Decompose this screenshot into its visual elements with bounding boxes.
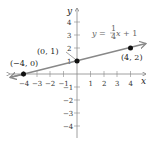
svg-text:−3: −3 [63,110,73,118]
svg-text:3: 3 [67,32,71,40]
point-label-4-2: (4, 2) [121,53,143,62]
svg-text:1: 1 [89,80,93,88]
svg-text:2: 2 [102,80,106,88]
graph: −4 −3 −2 −1 1 2 3 4 4 3 2 1 −1 −2 −3 −4 … [0,0,157,144]
svg-text:y =: y = [91,29,106,38]
point-0-1 [75,59,80,64]
point-4-2 [128,46,133,51]
svg-text:3: 3 [115,80,119,88]
svg-text:4: 4 [67,19,72,27]
svg-text:−4: −4 [63,123,74,131]
point-label-0-1: (0, 1) [37,47,59,56]
svg-text:−2: −2 [63,97,73,105]
y-tick-labels: 4 3 2 1 −1 −2 −3 −4 [63,19,74,131]
svg-text:−3: −3 [32,80,42,88]
x-axis-label: x [141,76,146,86]
svg-text:−4: −4 [19,80,30,88]
svg-text:2: 2 [67,45,71,53]
svg-text:x + 1: x + 1 [116,29,137,38]
svg-text:−2: −2 [45,80,55,88]
y-axis-label: y [66,6,73,16]
svg-text:−1: −1 [63,84,73,92]
svg-text:4: 4 [129,80,134,88]
point-label-neg4-0: (−4, 0) [10,59,38,68]
equation-label: y = 1 4 x + 1 [91,24,137,41]
point-neg4-0 [21,72,26,77]
